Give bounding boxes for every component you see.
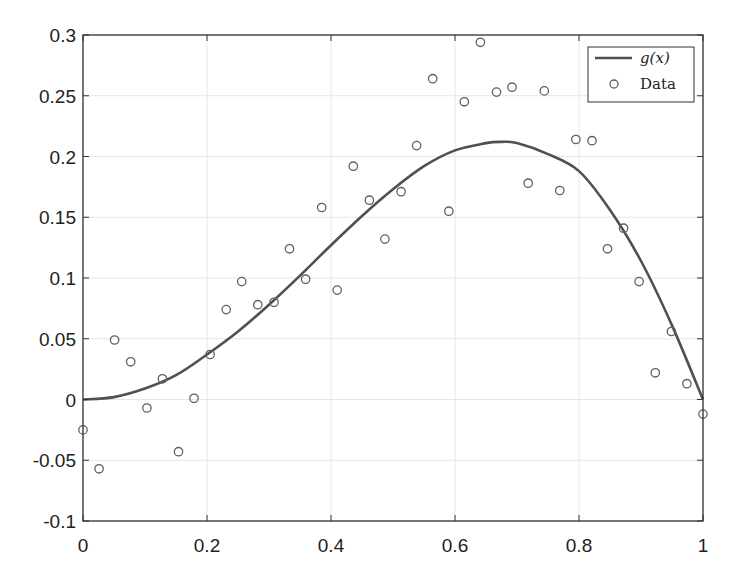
y-tick-label: 0.3 bbox=[50, 25, 76, 46]
legend-label-g: g(x) bbox=[640, 49, 670, 67]
y-tick-label: 0.1 bbox=[50, 268, 76, 289]
x-tick-label: 0.6 bbox=[442, 535, 468, 556]
x-tick-label: 0.4 bbox=[318, 535, 345, 556]
y-tick-label: -0.05 bbox=[33, 450, 76, 471]
y-tick-label: 0.05 bbox=[39, 329, 76, 350]
x-tick-label: 0 bbox=[78, 535, 89, 556]
x-tick-label: 1 bbox=[698, 535, 709, 556]
y-tick-label: 0.15 bbox=[39, 207, 76, 228]
legend: g(x) Data bbox=[588, 47, 694, 102]
y-tick-label: 0.2 bbox=[50, 147, 76, 168]
chart: 00.20.40.60.81 -0.1-0.0500.050.10.150.20… bbox=[0, 0, 733, 584]
y-tick-label: 0 bbox=[65, 390, 76, 411]
y-tick-label: -0.1 bbox=[43, 511, 76, 532]
x-tick-label: 0.8 bbox=[566, 535, 592, 556]
x-tick-label: 0.2 bbox=[194, 535, 220, 556]
y-tick-label: 0.25 bbox=[39, 86, 76, 107]
legend-label-data: Data bbox=[640, 75, 676, 93]
